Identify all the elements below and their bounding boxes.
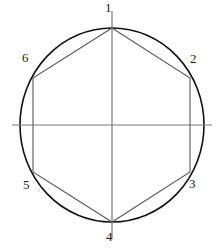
- vertex-label-4: 4: [106, 230, 113, 243]
- vertex-label-2: 2: [190, 52, 197, 65]
- vertex-label-5: 5: [23, 178, 30, 191]
- figure-canvas: 1 2 3 4 5 6: [0, 0, 216, 250]
- vertex-label-1: 1: [105, 1, 112, 14]
- vertex-label-6: 6: [22, 51, 29, 64]
- geometry-diagram-svg: [0, 0, 216, 250]
- vertex-label-3: 3: [189, 177, 196, 190]
